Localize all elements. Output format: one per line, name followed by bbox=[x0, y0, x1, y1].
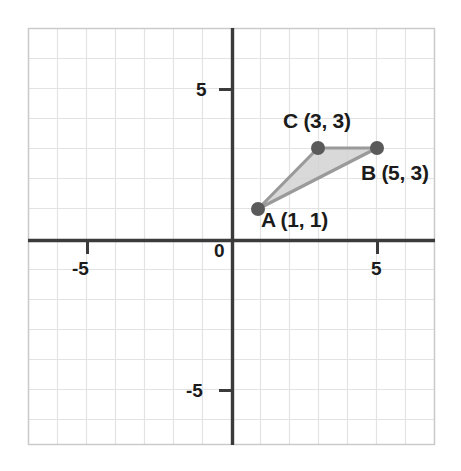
point-label-b: B (5, 3) bbox=[361, 161, 429, 185]
point-label-a: A (1, 1) bbox=[261, 208, 328, 232]
axis-label-x-pos5: 5 bbox=[371, 258, 381, 280]
axis-label-y-pos5: 5 bbox=[196, 79, 206, 101]
plot-canvas bbox=[0, 0, 461, 471]
data-point-c[interactable] bbox=[311, 141, 325, 155]
axis-label-y-neg5: -5 bbox=[186, 380, 203, 402]
coordinate-plane-figure: -5 5 5 -5 0 C (3, 3) B (5, 3) A (1, 1) bbox=[0, 0, 461, 471]
axis-label-x-neg5: -5 bbox=[72, 258, 89, 280]
point-label-c: C (3, 3) bbox=[283, 109, 351, 133]
data-point-b[interactable] bbox=[370, 141, 384, 155]
axis-label-origin: 0 bbox=[214, 240, 224, 262]
